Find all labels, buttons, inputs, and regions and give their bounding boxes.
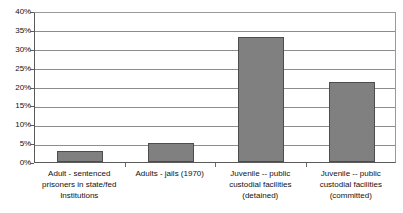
bar-slot (307, 13, 398, 162)
y-axis-tick-label: 10% (1, 121, 31, 129)
plot-area (34, 12, 396, 163)
y-axis-tick-label: 0% (1, 159, 31, 167)
x-axis-category-labels: Adult - sentencedprisoners in state/fedI… (34, 168, 396, 213)
bar-slot (35, 13, 126, 162)
x-axis-category-label: Juvenile -- publiccustodial facilities(d… (215, 168, 306, 201)
category-label-line: Juvenile -- public (215, 168, 306, 179)
bar[interactable] (329, 82, 375, 162)
category-label-line: Adult - sentenced (34, 168, 125, 179)
category-label-line: Institutions (34, 190, 125, 201)
category-label-line: custodial facilities (215, 179, 306, 190)
y-axis-tick-label: 5% (1, 140, 31, 148)
x-axis-category-label: Adults - jails (1970) (125, 168, 216, 179)
category-label-line: (committed) (306, 190, 397, 201)
bar-slot (126, 13, 217, 162)
category-label-line: Adults - jails (1970) (125, 168, 216, 179)
category-label-line: Juvenile -- public (306, 168, 397, 179)
y-axis-tick-label: 25% (1, 65, 31, 73)
bar-chart: 0%5%10%15%20%25%30%35%40% Adult - senten… (0, 0, 403, 213)
x-axis-tick-mark (215, 163, 216, 167)
bar[interactable] (148, 143, 194, 162)
y-axis-tick-label: 15% (1, 102, 31, 110)
y-axis-tick-label: 35% (1, 27, 31, 35)
category-label-line: (detained) (215, 190, 306, 201)
x-axis-tick-mark (125, 163, 126, 167)
x-axis-tick-mark (306, 163, 307, 167)
y-axis-tick-label: 40% (1, 8, 31, 16)
y-axis-tick-mark (30, 163, 34, 164)
category-label-line: prisoners in state/fed (34, 179, 125, 190)
category-label-line: custodial facilities (306, 179, 397, 190)
x-axis-category-label: Adult - sentencedprisoners in state/fedI… (34, 168, 125, 201)
y-axis-tick-label: 20% (1, 84, 31, 92)
x-axis-category-label: Juvenile -- publiccustodial facilities(c… (306, 168, 397, 201)
y-axis: 0%5%10%15%20%25%30%35%40% (0, 0, 31, 213)
bar-slot (216, 13, 307, 162)
y-axis-tick-label: 30% (1, 46, 31, 54)
bar[interactable] (57, 151, 103, 162)
bar[interactable] (238, 37, 284, 162)
